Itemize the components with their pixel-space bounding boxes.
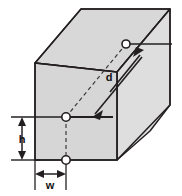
height-arrowhead-up [18, 117, 26, 126]
width-label: w [45, 179, 55, 191]
width-arrowhead-right [57, 170, 66, 178]
box-dimension-diagram: d h w [0, 0, 182, 196]
bottom-edge-node-marker-icon [62, 156, 70, 164]
front-face-node-marker-icon [62, 113, 70, 121]
width-arrowhead-left [35, 170, 44, 178]
height-label: h [19, 133, 26, 145]
top-rear-node-marker-icon [122, 40, 130, 48]
depth-label: d [106, 71, 113, 83]
width-dimension-group: w [35, 160, 66, 191]
height-arrowhead-down [18, 151, 26, 160]
figure-container: d h w [0, 0, 182, 196]
box-faces [35, 9, 170, 160]
